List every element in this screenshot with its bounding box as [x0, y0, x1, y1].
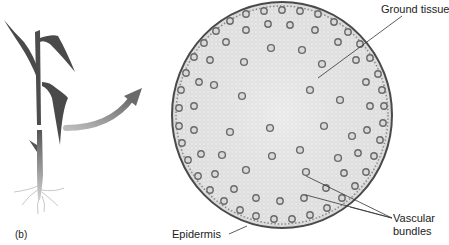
corn-plant-icon: [4, 20, 142, 214]
panel-label: (b): [15, 229, 27, 241]
stem-cross-section: [172, 2, 392, 228]
vascular-leader-3: [350, 207, 392, 218]
ground-tissue-label: Ground tissue: [381, 3, 449, 15]
vascular-bundles-label-line2: bundles: [393, 225, 432, 237]
epidermis-label: Epidermis: [172, 228, 221, 240]
epidermis-leader: [229, 226, 247, 234]
vascular-bundles-label-line1: Vascular: [393, 212, 435, 224]
